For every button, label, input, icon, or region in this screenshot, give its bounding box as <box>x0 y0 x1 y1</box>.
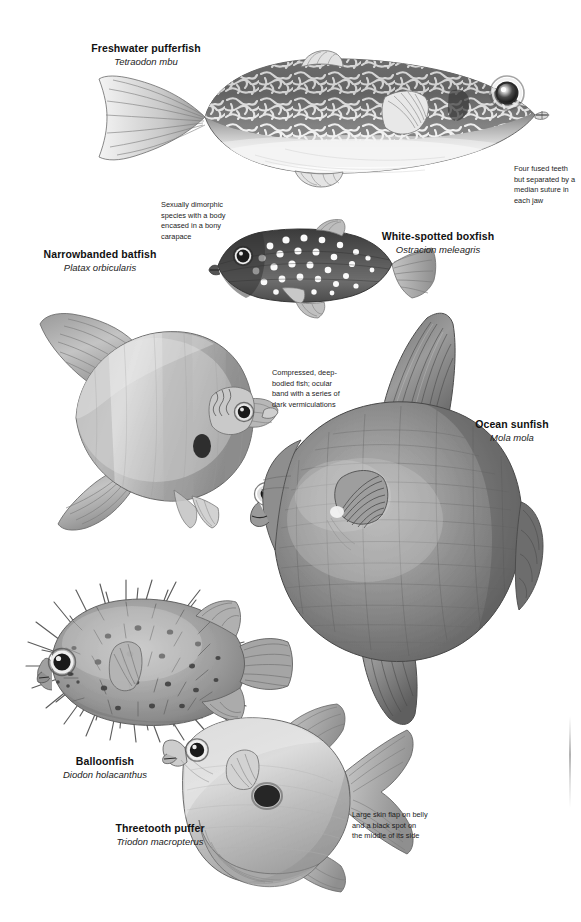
page-edge-mark <box>569 716 571 808</box>
common-name: Ocean sunfish <box>442 418 581 431</box>
annotation-teeth: Four fused teeth but separated by a medi… <box>514 164 580 206</box>
common-name: Freshwater pufferfish <box>46 42 246 55</box>
scientific-name: Platax orbicularis <box>0 262 200 274</box>
label-freshwater-pufferfish: Freshwater pufferfish Tetraodon mbu <box>46 42 246 67</box>
scientific-name: Tetraodon mbu <box>46 56 246 68</box>
illustration-plate: Freshwater pufferfish Tetraodon mbu Four… <box>0 0 581 922</box>
common-name: White-spotted boxfish <box>338 230 538 243</box>
scientific-name: Mola mola <box>442 432 581 444</box>
threetooth-puffer-illustration <box>155 700 435 900</box>
label-white-spotted-boxfish: White-spotted boxfish Ostracion meleagri… <box>338 230 538 255</box>
scientific-name: Ostracion meleagris <box>338 244 538 256</box>
label-ocean-sunfish: Ocean sunfish Mola mola <box>442 418 581 443</box>
annotation-skinflap: Large skin flap on belly and a black spo… <box>352 810 428 842</box>
scientific-name: Triodon macropterus <box>60 836 260 848</box>
label-threetooth-puffer: Threetooth puffer Triodon macropterus <box>60 822 260 847</box>
common-name: Narrowbanded batfish <box>0 248 200 261</box>
common-name: Threetooth puffer <box>60 822 260 835</box>
label-narrowbanded-batfish: Narrowbanded batfish Platax orbicularis <box>0 248 200 273</box>
annotation-carapace: Sexually dimorphic species with a body e… <box>161 200 233 242</box>
